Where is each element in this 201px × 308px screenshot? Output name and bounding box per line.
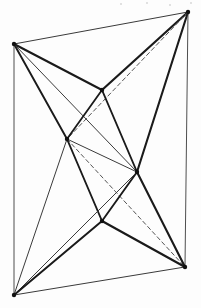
right-interior-vertex: [135, 170, 139, 174]
edge-FG: [14, 221, 102, 295]
edge-CE: [102, 90, 137, 172]
lower-middle-vertex: [100, 219, 104, 223]
edge-DE: [67, 139, 137, 172]
edge-GH: [14, 267, 185, 295]
scan-speck: [146, 2, 148, 4]
edge-DH: [67, 139, 185, 267]
bottom-left-vertex: [12, 293, 16, 297]
edge-EF: [102, 172, 137, 221]
figure-canvas: [0, 0, 201, 308]
top-left-vertex: [12, 42, 16, 46]
edge-EG: [14, 172, 137, 295]
edge-AE: [14, 44, 137, 172]
left-interior-vertex: [65, 137, 69, 141]
edge-CD: [67, 90, 102, 139]
upper-middle-vertex: [100, 88, 104, 92]
edge-layer: [14, 12, 188, 295]
scan-speck: [190, 2, 192, 4]
bottom-right-vertex: [183, 265, 187, 269]
edge-DF: [67, 139, 102, 221]
edge-BH: [185, 12, 188, 267]
top-right-vertex: [186, 10, 190, 14]
scan-speck: [120, 3, 122, 5]
polyhedron-wireframe-diagram: [0, 0, 201, 308]
scan-speck: [169, 4, 171, 6]
